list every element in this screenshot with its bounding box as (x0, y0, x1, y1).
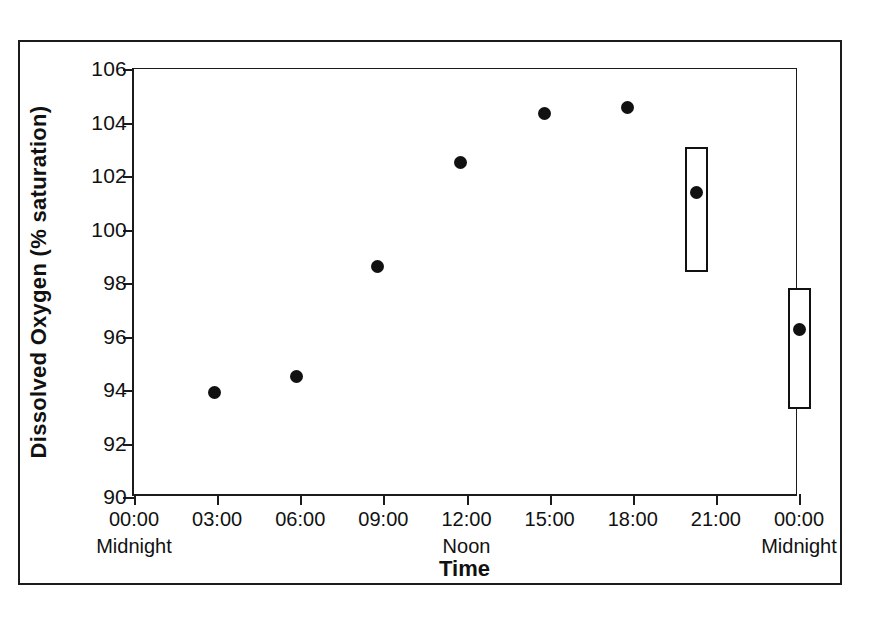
x-tick-sublabel: Noon (443, 535, 491, 558)
x-tick-sublabel: Midnight (96, 535, 172, 558)
y-tick-label: 102 (91, 164, 127, 188)
data-point (621, 101, 634, 114)
y-tick-label: 90 (103, 485, 127, 509)
y-tick-label: 96 (103, 325, 127, 349)
x-tick-label: 21:00 (691, 508, 741, 531)
x-tick-mark (550, 494, 552, 505)
y-tick-label: 106 (91, 57, 127, 81)
x-tick-mark (383, 494, 385, 505)
x-tick-mark (716, 494, 718, 505)
x-tick-sublabel: Midnight (761, 535, 837, 558)
data-point (371, 260, 384, 273)
x-tick-label: 03:00 (192, 508, 242, 531)
data-point (793, 323, 806, 336)
x-tick-label: 12:00 (441, 508, 491, 531)
x-tick-label: 09:00 (358, 508, 408, 531)
data-point (538, 107, 551, 120)
y-axis-title-text: Dissolved Oxygen (% saturation) (26, 106, 52, 459)
x-axis-title: Time (132, 556, 797, 582)
data-point (208, 386, 221, 399)
y-tick-label: 92 (103, 432, 127, 456)
y-axis-title: Dissolved Oxygen (% saturation) (22, 68, 56, 496)
x-tick-mark (799, 494, 801, 505)
y-tick-label: 98 (103, 271, 127, 295)
y-tick-label: 94 (103, 378, 127, 402)
x-tick-label: 06:00 (275, 508, 325, 531)
data-point (454, 156, 467, 169)
x-tick-label: 18:00 (608, 508, 658, 531)
figure-root: Dissolved Oxygen (% saturation) 90929496… (0, 0, 882, 617)
x-tick-label: 00:00 (109, 508, 159, 531)
y-tick-label: 100 (91, 218, 127, 242)
x-tick-mark (134, 494, 136, 505)
y-tick-label: 104 (91, 111, 127, 135)
x-tick-label: 15:00 (525, 508, 575, 531)
data-point (690, 186, 703, 199)
x-tick-mark (217, 494, 219, 505)
plot-area: 9092949698100102104106 00:00Midnight03:0… (132, 68, 797, 496)
data-point (290, 370, 303, 383)
range-box (685, 147, 708, 273)
x-tick-label: 00:00 (774, 508, 824, 531)
x-tick-mark (467, 494, 469, 505)
x-tick-mark (633, 494, 635, 505)
x-tick-mark (300, 494, 302, 505)
range-box (788, 288, 811, 408)
